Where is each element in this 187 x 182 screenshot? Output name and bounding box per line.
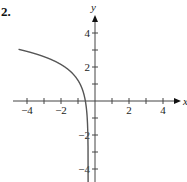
y-axis-arrow-icon xyxy=(92,15,98,22)
y-tick-label: 2 xyxy=(85,61,91,73)
x-tick-label: −2 xyxy=(55,104,67,116)
x-tick-label: 2 xyxy=(126,104,132,116)
graph: xy−4−22442−2−4 xyxy=(0,0,187,182)
x-tick-label: −4 xyxy=(21,104,33,116)
axes: xy−4−22442−2−4 xyxy=(13,1,187,182)
x-axis-label: x xyxy=(182,95,187,107)
y-axis-label: y xyxy=(90,1,96,13)
x-tick-label: 4 xyxy=(160,104,166,116)
y-tick-label: 4 xyxy=(85,27,91,39)
x-axis-arrow-icon xyxy=(174,98,181,104)
